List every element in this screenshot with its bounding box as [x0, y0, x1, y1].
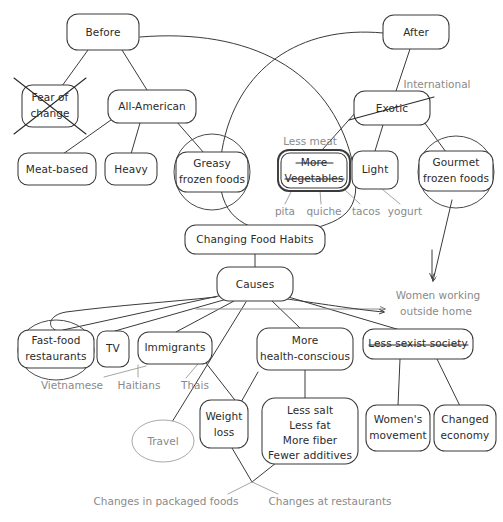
node-changed-economy-shape[interactable]: [434, 405, 496, 451]
node-all-american-label: All-American: [118, 100, 186, 112]
node-health-details-label-line2: Less fat: [289, 419, 330, 431]
node-after-label: After: [403, 26, 429, 38]
node-travel-label: Travel: [146, 435, 178, 447]
leader-thais: [186, 364, 198, 378]
node-causes-label: Causes: [236, 278, 274, 290]
edge-before-fear: [62, 50, 88, 86]
node-travel[interactable]: Travel: [132, 420, 194, 462]
node-more-health-conscious-label-line2: health-conscious: [260, 350, 350, 362]
leader-at-restaurants: [252, 482, 278, 494]
node-before-label: Before: [86, 26, 121, 38]
node-more-vegetables[interactable]: More Vegetables: [278, 150, 350, 191]
node-changing-food-habits[interactable]: Changing Food Habits: [185, 225, 325, 254]
annotation-thais: Thais: [180, 379, 209, 391]
node-immigrants-label: Immigrants: [144, 341, 205, 353]
node-tv-label: TV: [105, 342, 121, 354]
node-health-details-label-line4: Fewer additives: [268, 449, 352, 461]
annotation-haitians: Haitians: [118, 379, 161, 391]
node-changed-economy-label-line2: economy: [441, 429, 490, 441]
node-health-details[interactable]: Less salt Less fat More fiber Fewer addi…: [262, 398, 358, 464]
leader-yogurt: [382, 189, 400, 204]
edge-causes-health-left: [240, 372, 258, 404]
node-weight-loss-label-line2: loss: [214, 426, 235, 438]
edge-causes-fastfood: [63, 295, 223, 330]
node-health-details-label-line3: More fiber: [283, 434, 338, 446]
node-heavy-label: Heavy: [114, 163, 148, 175]
node-causes[interactable]: Causes: [217, 267, 293, 301]
node-changed-economy[interactable]: Changed economy: [434, 405, 496, 451]
annotation-women-working-line1: Women working: [396, 289, 481, 301]
node-exotic[interactable]: Exotic: [349, 91, 434, 125]
concept-map-diagram: Before Fear of change All-American Meat-…: [0, 0, 503, 522]
node-less-sexist-society-label: Less sexist society: [368, 337, 467, 349]
node-weight-loss-shape[interactable]: [200, 400, 248, 448]
node-weight-loss-label-line1: Weight: [205, 410, 242, 422]
node-before[interactable]: Before: [67, 14, 139, 50]
node-womens-movement-label-line2: movement: [369, 429, 427, 441]
annotation-less-meat: Less meat: [283, 135, 337, 147]
edge-healthdetails-junction: [252, 463, 276, 482]
node-meat-based[interactable]: Meat-based: [18, 153, 96, 185]
node-heavy[interactable]: Heavy: [105, 153, 157, 185]
edge-immigrants-weightloss: [206, 363, 238, 404]
node-tv[interactable]: TV: [97, 331, 129, 367]
node-after[interactable]: After: [383, 15, 449, 49]
node-womens-movement-shape[interactable]: [366, 405, 430, 451]
node-gourmet-frozen-foods-label-line2: frozen foods: [423, 172, 489, 184]
node-greasy-frozen-foods[interactable]: Greasy frozen foods: [174, 134, 250, 210]
node-immigrants[interactable]: Immigrants: [138, 332, 212, 364]
node-fast-food-restaurants[interactable]: Fast-food restaurants: [18, 320, 94, 380]
node-less-sexist-society[interactable]: Less sexist society: [363, 329, 473, 359]
node-all-american[interactable]: All-American: [108, 90, 196, 123]
node-more-vegetables-label-line2: Vegetables: [284, 172, 343, 184]
annotation-women-working-line2: outside home: [400, 305, 472, 317]
node-greasy-frozen-foods-label-line2: frozen foods: [179, 173, 245, 185]
edge-exotic-light: [375, 125, 383, 151]
node-womens-movement[interactable]: Women's movement: [366, 405, 430, 451]
node-more-health-conscious-label-line1: More: [292, 334, 318, 346]
node-meat-based-label: Meat-based: [26, 163, 89, 175]
leader-packaged-foods: [228, 482, 252, 494]
concept-map-canvas: Before Fear of change All-American Meat-…: [0, 0, 503, 522]
edge-allamerican-heavy: [131, 123, 140, 154]
edge-weightloss-junction: [232, 448, 252, 482]
edge-exotic-gourmet: [424, 122, 446, 152]
node-changing-food-habits-label: Changing Food Habits: [196, 233, 313, 245]
node-fast-food-restaurants-label-line1: Fast-food: [32, 334, 81, 346]
edge-lesssexist-changedeconomy: [437, 359, 460, 406]
node-womens-movement-label-line1: Women's: [374, 413, 423, 425]
leader-pita: [285, 190, 292, 204]
annotation-yogurt: yogurt: [388, 205, 422, 217]
edge-lesssexist-womensmovement: [398, 359, 400, 406]
node-light-label: Light: [362, 163, 389, 175]
edge-allamerican-greasy: [176, 121, 204, 153]
node-more-health-conscious[interactable]: More health-conscious: [257, 328, 353, 370]
node-weight-loss[interactable]: Weight loss: [200, 400, 248, 448]
node-more-vegetables-label-line1: More: [301, 156, 327, 168]
edge-gourmet-women-working: [433, 200, 452, 281]
edge-before-allamerican: [122, 50, 147, 90]
node-changed-economy-label-line1: Changed: [441, 413, 489, 425]
edge-causes-healthconscious: [272, 301, 300, 328]
node-gourmet-frozen-foods[interactable]: Gourmet frozen foods: [418, 136, 494, 208]
annotation-vietnamese: Vietnamese: [41, 379, 103, 391]
node-health-details-label-line1: Less salt: [287, 404, 333, 416]
node-light[interactable]: Light: [352, 151, 398, 189]
node-greasy-frozen-foods-label-line1: Greasy: [193, 157, 230, 169]
annotation-international: International: [403, 78, 470, 90]
node-fear-of-change-label-line1: Fear of: [32, 91, 69, 103]
annotation-pita: pita: [275, 205, 295, 217]
node-fast-food-restaurants-label-line2: restaurants: [25, 350, 86, 362]
edge-before-arc-right: [140, 36, 356, 232]
annotation-quiche: quiche: [306, 205, 341, 217]
leader-quiche: [320, 190, 321, 204]
annotation-changes-in-packaged-foods: Changes in packaged foods: [94, 495, 239, 507]
leader-tacos: [345, 190, 360, 204]
annotation-changes-at-restaurants: Changes at restaurants: [268, 495, 391, 507]
node-fear-of-change[interactable]: Fear of change: [14, 78, 86, 134]
leader-vietnamese: [104, 366, 146, 377]
annotation-tacos: tacos: [352, 205, 380, 217]
node-gourmet-frozen-foods-label-line1: Gourmet: [433, 156, 480, 168]
